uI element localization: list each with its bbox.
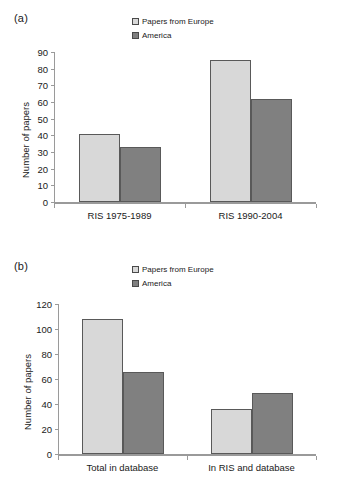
y-tick-label: 10: [12, 180, 48, 191]
legend-swatch-icon-america: [132, 32, 139, 39]
y-tick-label: 0: [16, 449, 52, 460]
bar-america: [251, 99, 292, 202]
bar-europe: [210, 60, 251, 202]
legend-label-america: America: [142, 278, 171, 289]
y-tick-label: 80: [12, 63, 48, 74]
plot-area-b: 020406080100120Total in databaseIn RIS a…: [58, 304, 316, 454]
y-tick-mark: [51, 185, 54, 186]
x-axis-category-label: Total in database: [87, 462, 159, 473]
y-tick-mark: [55, 304, 58, 305]
y-tick-mark: [51, 52, 54, 53]
y-tick-mark: [51, 69, 54, 70]
x-axis-category-label: In RIS and database: [208, 462, 295, 473]
legend-label-europe: Papers from Europe: [142, 264, 214, 275]
y-tick-mark: [51, 135, 54, 136]
bar-europe: [211, 409, 252, 454]
panel-label-a: (a): [14, 12, 28, 24]
bar-america: [252, 393, 293, 454]
legend-b: Papers from Europe America: [132, 264, 214, 292]
y-tick-mark: [55, 354, 58, 355]
chart-panel-b: (b) Papers from Europe America 020406080…: [0, 248, 346, 496]
plot-area-a: 0102030405060708090RIS 1975-1989RIS 1990…: [54, 52, 316, 202]
chart-panel-a: (a) Papers from Europe America 010203040…: [0, 0, 346, 248]
y-tick-mark: [55, 404, 58, 405]
bar-europe: [82, 319, 123, 454]
y-tick-label: 0: [12, 197, 48, 208]
legend-label-europe: Papers from Europe: [142, 16, 214, 27]
legend-label-america: America: [142, 30, 171, 41]
x-tick-mark: [316, 456, 317, 460]
y-tick-mark: [51, 202, 54, 203]
legend-swatch-icon-europe: [132, 18, 139, 25]
bar-europe: [79, 134, 120, 202]
legend-item-america: America: [132, 30, 214, 41]
legend-item-america: America: [132, 278, 214, 289]
y-tick-mark: [55, 329, 58, 330]
y-tick-mark: [55, 379, 58, 380]
legend-swatch-icon-america: [132, 280, 139, 287]
x-tick-mark: [58, 456, 59, 460]
y-tick-mark: [55, 429, 58, 430]
bar-america: [123, 372, 164, 455]
y-axis-line: [58, 304, 59, 454]
x-axis-category-label: RIS 1990-2004: [219, 210, 283, 221]
x-tick-mark: [316, 204, 317, 208]
legend-swatch-icon-europe: [132, 266, 139, 273]
y-tick-mark: [51, 152, 54, 153]
y-tick-mark: [51, 169, 54, 170]
x-axis-category-label: RIS 1975-1989: [88, 210, 152, 221]
x-tick-mark: [185, 204, 186, 208]
y-axis-line: [54, 52, 55, 202]
legend-a: Papers from Europe America: [132, 16, 214, 44]
legend-item-europe: Papers from Europe: [132, 264, 214, 275]
legend-item-europe: Papers from Europe: [132, 16, 214, 27]
y-tick-label: 70: [12, 80, 48, 91]
x-tick-mark: [54, 204, 55, 208]
y-tick-mark: [51, 119, 54, 120]
y-tick-label: 90: [12, 47, 48, 58]
y-axis-title-b: Number of papers: [22, 354, 33, 430]
y-axis-title-a: Number of papers: [20, 102, 31, 178]
panel-label-b: (b): [14, 260, 28, 272]
figure-container: (a) Papers from Europe America 010203040…: [0, 0, 346, 496]
y-tick-label: 120: [16, 299, 52, 310]
x-tick-mark: [187, 456, 188, 460]
bar-america: [120, 147, 161, 202]
y-tick-mark: [51, 85, 54, 86]
y-tick-label: 100: [16, 324, 52, 335]
y-tick-mark: [55, 454, 58, 455]
y-tick-mark: [51, 102, 54, 103]
